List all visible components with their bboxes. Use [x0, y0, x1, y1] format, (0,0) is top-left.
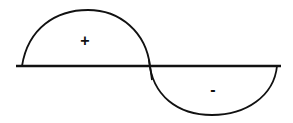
positive-sign-label: +: [80, 32, 89, 49]
wave-diagram: + -: [0, 0, 293, 123]
negative-sign-label: -: [210, 81, 215, 98]
